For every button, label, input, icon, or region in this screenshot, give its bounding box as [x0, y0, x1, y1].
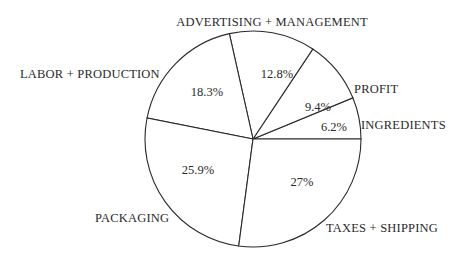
- pie-chart: 6.2%9.4%12.8%18.3%25.9%27% INGREDIENTSPR…: [0, 0, 468, 255]
- slice-percent-label: 9.4%: [305, 100, 331, 114]
- slice-category-label: PACKAGING: [95, 211, 169, 225]
- slice-category-label: INGREDIENTS: [361, 118, 446, 132]
- slice-category-label: PROFIT: [354, 82, 398, 96]
- slice-category-label: ADVERTISING + MANAGEMENT: [176, 15, 368, 29]
- slice-category-label: TAXES + SHIPPING: [326, 221, 438, 235]
- slice-percent-label: 6.2%: [321, 120, 347, 134]
- slice-percent-label: 27%: [291, 175, 314, 189]
- slice-percent-label: 25.9%: [182, 163, 214, 177]
- pie-slices: [145, 31, 361, 247]
- pie-slice-packaging: [145, 118, 253, 246]
- slice-percent-label: 12.8%: [261, 67, 293, 81]
- slice-percent-label: 18.3%: [191, 85, 223, 99]
- slice-category-label: LABOR + PRODUCTION: [20, 67, 160, 81]
